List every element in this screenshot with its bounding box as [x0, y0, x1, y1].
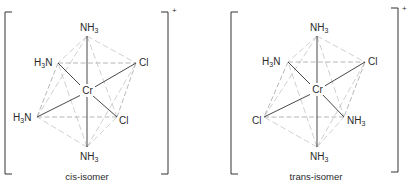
ligand-upper-left-h3n: H3N — [34, 57, 52, 69]
caption-trans-isomer: trans-isomer — [290, 171, 343, 182]
ligand-lower-right-nh3: NH3 — [347, 115, 365, 127]
cis-isomer-panel: + Cr NH3 H3N — [5, 6, 177, 182]
ligand-top-nh3: NH3 — [310, 22, 328, 34]
caption-cis-isomer: cis-isomer — [65, 171, 108, 182]
right-bracket-icon — [161, 12, 168, 174]
right-bracket-icon — [391, 8, 398, 172]
ligand-lower-right-cl: Cl — [119, 115, 128, 126]
central-atom-cr: Cr — [312, 84, 323, 95]
isomer-diagram: + Cr NH3 H3N — [0, 0, 412, 186]
charge-sign: + — [172, 6, 177, 15]
ligand-lower-left-h3n: H3N — [13, 112, 31, 124]
ligand-bottom-nh3: NH3 — [310, 151, 328, 163]
left-bracket-icon — [231, 12, 238, 174]
ligand-upper-right-cl: Cl — [139, 57, 148, 68]
ligand-upper-right-cl: Cl — [368, 56, 377, 67]
ligand-bottom-nh3: NH3 — [80, 151, 98, 163]
ligand-upper-left-h3n: H3N — [262, 56, 280, 68]
charge-sign: + — [402, 4, 407, 13]
trans-isomer-panel: + Cr NH3 H3N Cl Cl NH — [231, 4, 407, 182]
ligand-lower-left-cl: Cl — [252, 115, 261, 126]
ligand-top-nh3: NH3 — [80, 22, 98, 34]
left-bracket-icon — [5, 12, 12, 174]
central-atom-cr: Cr — [82, 85, 93, 96]
